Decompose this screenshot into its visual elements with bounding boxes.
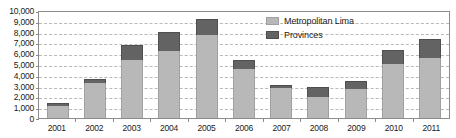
bar-group bbox=[39, 12, 449, 118]
x-axis-tick-label: 2002 bbox=[75, 121, 112, 138]
bar-slot bbox=[225, 12, 262, 118]
x-axis-tick-label: 2007 bbox=[263, 121, 300, 138]
bar-segment-provinces bbox=[345, 81, 367, 90]
y-axis-tick-label: 1,000 bbox=[14, 103, 34, 113]
stacked-bar bbox=[270, 85, 292, 118]
stacked-bar bbox=[84, 79, 106, 118]
stacked-bar bbox=[121, 45, 143, 118]
bar-segment-provinces bbox=[196, 19, 218, 35]
bar-segment-metropolitan-lima bbox=[382, 64, 404, 118]
stacked-bar bbox=[158, 32, 180, 118]
x-axis: 2001200220032004200520062007200820092010… bbox=[38, 121, 450, 138]
y-axis-tick-label: 8,000 bbox=[14, 28, 34, 38]
x-axis-tick-label: 2001 bbox=[38, 121, 75, 138]
bar-segment-metropolitan-lima bbox=[233, 69, 255, 118]
legend-label-provinces: Provinces bbox=[284, 30, 323, 40]
x-axis-tick-label: 2005 bbox=[188, 121, 225, 138]
legend-swatch-provinces bbox=[266, 31, 279, 39]
bar-segment-metropolitan-lima bbox=[345, 89, 367, 118]
bar-segment-metropolitan-lima bbox=[270, 88, 292, 118]
y-axis: 01,0002,0003,0004,0005,0006,0007,0008,00… bbox=[0, 5, 36, 119]
y-axis-tick-label: 9,000 bbox=[14, 17, 34, 27]
x-axis-tick-label: 2011 bbox=[413, 121, 450, 138]
y-axis-tick-label: 4,000 bbox=[14, 71, 34, 81]
bar-segment-provinces bbox=[158, 32, 180, 51]
bar-segment-provinces bbox=[121, 45, 143, 60]
stacked-bar bbox=[307, 87, 329, 118]
bar-segment-provinces bbox=[382, 50, 404, 64]
bar-slot bbox=[188, 12, 225, 118]
x-axis-tick-label: 2004 bbox=[150, 121, 187, 138]
x-axis-tick-label: 2003 bbox=[113, 121, 150, 138]
stacked-bar bbox=[345, 81, 367, 118]
legend-swatch-metropolitan-lima bbox=[266, 17, 279, 25]
bar-slot bbox=[39, 12, 76, 118]
y-axis-tick-label: 6,000 bbox=[14, 49, 34, 59]
y-axis-tick-label: 5,000 bbox=[14, 60, 34, 70]
bar-slot bbox=[374, 12, 411, 118]
y-axis-tick-label: 0 bbox=[29, 114, 34, 124]
x-axis-tick-label: 2008 bbox=[300, 121, 337, 138]
bar-segment-provinces bbox=[307, 87, 329, 97]
bar-segment-metropolitan-lima bbox=[47, 106, 69, 118]
bar-segment-metropolitan-lima bbox=[419, 58, 441, 118]
x-axis-tick-label: 2006 bbox=[225, 121, 262, 138]
bar-segment-metropolitan-lima bbox=[158, 51, 180, 118]
bar-segment-metropolitan-lima bbox=[307, 97, 329, 118]
stacked-bar bbox=[233, 60, 255, 118]
y-axis-tick-label: 2,000 bbox=[14, 92, 34, 102]
bar-segment-provinces bbox=[419, 39, 441, 58]
x-axis-tick-label: 2009 bbox=[338, 121, 375, 138]
plot-area bbox=[38, 11, 450, 119]
bar-segment-metropolitan-lima bbox=[121, 60, 143, 118]
bar-segment-provinces bbox=[233, 60, 255, 70]
x-axis-tick-label: 2010 bbox=[375, 121, 412, 138]
stacked-bar bbox=[382, 50, 404, 118]
bar-segment-metropolitan-lima bbox=[84, 83, 106, 118]
stacked-bar-chart: 01,0002,0003,0004,0005,0006,0007,0008,00… bbox=[0, 0, 456, 138]
legend-item-metropolitan-lima: Metropolitan Lima bbox=[266, 15, 354, 26]
bar-segment-metropolitan-lima bbox=[196, 35, 218, 118]
y-axis-tick-label: 7,000 bbox=[14, 38, 34, 48]
stacked-bar bbox=[419, 39, 441, 118]
legend-label-metropolitan-lima: Metropolitan Lima bbox=[284, 16, 354, 26]
bar-slot bbox=[114, 12, 151, 118]
y-axis-tick-label: 10,000 bbox=[9, 6, 34, 16]
legend: Metropolitan Lima Provinces bbox=[266, 15, 354, 40]
stacked-bar bbox=[196, 19, 218, 118]
y-axis-tick-label: 3,000 bbox=[14, 82, 34, 92]
bar-slot bbox=[412, 12, 449, 118]
legend-item-provinces: Provinces bbox=[266, 29, 354, 40]
bar-slot bbox=[76, 12, 113, 118]
stacked-bar bbox=[47, 103, 69, 118]
bar-slot bbox=[151, 12, 188, 118]
